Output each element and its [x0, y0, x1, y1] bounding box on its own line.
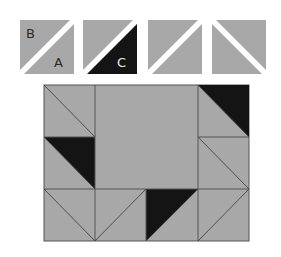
- piece-1-b-a: B A: [20, 20, 74, 74]
- piece-3: [148, 20, 202, 74]
- quilt-diagram: B A C: [0, 0, 281, 257]
- quilt-block: [44, 85, 249, 241]
- piece-4: [212, 20, 266, 74]
- label-c: C: [117, 55, 126, 70]
- piece-2-c: C: [83, 20, 137, 74]
- label-b: B: [26, 26, 35, 41]
- label-a: A: [54, 55, 63, 70]
